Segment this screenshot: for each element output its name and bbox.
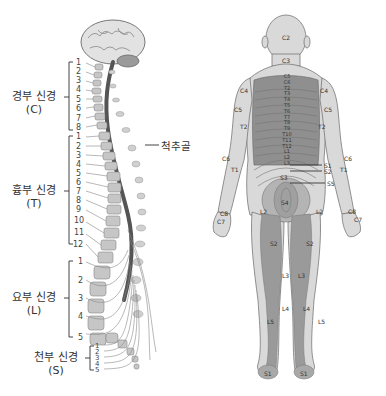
spine-diagram: 경부 신경 (C) 흉부 신경 (T) 요부 신경 (L) 천부 신경 (S) … <box>0 0 200 396</box>
label-perianal: S4 <box>281 199 289 206</box>
label-thigh-left: S2 <box>270 240 278 247</box>
cervical-number: 5 <box>76 95 81 104</box>
label-hand-left: C8 <box>220 210 228 217</box>
label-finger-right: C7 <box>354 216 362 223</box>
thoracic-number: 1 <box>76 132 81 141</box>
brain-icon <box>81 20 145 67</box>
label-forearm-inner-right: T1 <box>340 166 347 173</box>
spine-level: L3 <box>280 161 294 167</box>
cervical-number: 1 <box>76 58 81 67</box>
label-inner-arm-left: T2 <box>240 123 247 130</box>
thoracic-number: 2 <box>76 142 81 151</box>
group-abbr: (T) <box>6 197 62 210</box>
lumbar-number: 3 <box>78 294 83 303</box>
label-callout-s5: S5 <box>327 180 335 187</box>
lumbar-number: 1 <box>78 257 83 266</box>
label-hand-right: C8 <box>348 208 356 215</box>
label-heel-left: S1 <box>264 370 272 377</box>
label-inner-arm-right: T2 <box>318 123 325 130</box>
label-forearm-left: C6 <box>222 155 230 162</box>
cervical-number: 3 <box>76 76 81 85</box>
label-knee-right: L3 <box>298 272 305 279</box>
label-buttock: S3 <box>280 174 288 181</box>
group-name: 천부 신경 <box>28 351 84 364</box>
cervical-number: 2 <box>76 67 81 76</box>
label-calf-left: L4 <box>282 305 289 312</box>
label-lateral-calf-left: L5 <box>267 318 274 325</box>
label-shoulder-right: C4 <box>320 87 328 94</box>
label-knee-left: L3 <box>282 272 289 279</box>
group-label-thoracic: 흉부 신경 (T) <box>6 184 62 210</box>
cervical-number: 4 <box>76 85 81 94</box>
thoracic-number: 10 <box>74 216 84 225</box>
group-abbr: (C) <box>6 103 62 116</box>
label-upper-arm-right: C5 <box>324 106 332 113</box>
thoracic-number: 8 <box>76 196 81 205</box>
label-finger-left: C7 <box>217 218 225 225</box>
label-forearm-inner-left: T1 <box>231 166 238 173</box>
label-head: C2 <box>282 34 290 41</box>
group-label-sacral: 천부 신경 (S) <box>28 351 84 377</box>
label-callout-s2: S2 <box>324 168 332 175</box>
thoracic-number: 6 <box>76 178 81 187</box>
lumbar-number: 2 <box>78 276 83 285</box>
sacral-number: 5 <box>95 367 99 373</box>
group-name: 요부 신경 <box>6 291 62 304</box>
label-forearm-right: C6 <box>344 155 352 162</box>
lumbar-number: 4 <box>78 312 83 321</box>
thoracic-number: 4 <box>76 160 81 169</box>
label-neck: C3 <box>282 57 290 64</box>
label-upper-arm-left: C5 <box>234 106 242 113</box>
group-label-lumbar: 요부 신경 (L) <box>6 291 62 317</box>
thoracic-number: 12 <box>73 240 83 249</box>
thoracic-number: 11 <box>74 228 84 237</box>
thoracic-number: 7 <box>76 187 81 196</box>
dermatome-map: C2 C3 C4 C4 C5 C5 T2 T2 C6 C6 T1 T1 C8 C… <box>200 0 386 396</box>
lumbar-number: 5 <box>78 333 83 342</box>
group-abbr: (L) <box>6 304 62 317</box>
vertebra-callout: 척추골 <box>161 138 191 153</box>
group-abbr: (S) <box>28 364 84 377</box>
label-calf-right: L4 <box>303 305 310 312</box>
label-lateral-calf-right: L5 <box>318 318 325 325</box>
thoracic-number: 3 <box>76 151 81 160</box>
label-hip-left: L2 <box>260 208 267 215</box>
vertebrae <box>88 64 139 369</box>
dermatome-labels: C2 C3 C4 C4 C5 C5 T2 T2 C6 C6 T1 T1 C8 C… <box>200 0 386 396</box>
thoracic-number: 5 <box>76 169 81 178</box>
group-name: 경부 신경 <box>6 90 62 103</box>
cervical-number: 6 <box>76 104 81 113</box>
cervical-number: 8 <box>76 123 81 132</box>
label-shoulder-left: C4 <box>240 87 248 94</box>
spine-level-labels: C5 C6 T2 T3 T4 T5 T6 T7 T8 T9 T10 T11 T1… <box>280 74 294 167</box>
group-name: 흉부 신경 <box>6 184 62 197</box>
label-heel-right: S1 <box>300 370 308 377</box>
cervical-number: 7 <box>76 114 81 123</box>
label-hip-right: L2 <box>316 208 323 215</box>
thoracic-number: 9 <box>76 205 81 214</box>
group-label-cervical: 경부 신경 (C) <box>6 90 62 116</box>
label-thigh-right: S2 <box>306 240 314 247</box>
